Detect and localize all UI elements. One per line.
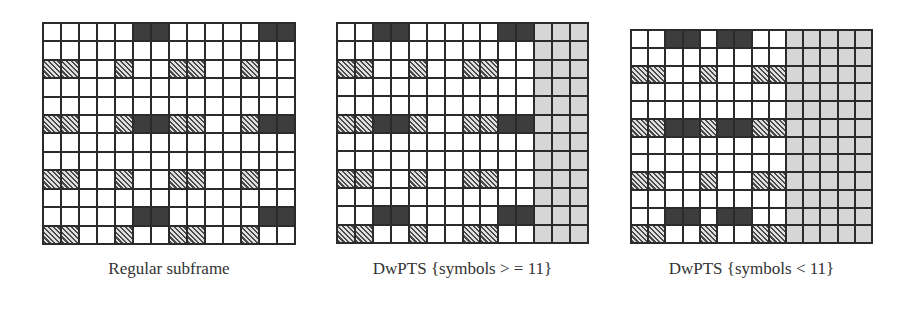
gray-cell [804, 49, 819, 65]
empty-cell [356, 152, 372, 168]
hatched-cell [481, 116, 497, 132]
gray-cell [553, 24, 569, 40]
empty-cell [666, 173, 681, 189]
empty-cell [338, 42, 354, 58]
hatched-cell [44, 171, 60, 187]
empty-cell [632, 191, 647, 207]
empty-cell [481, 189, 497, 205]
gray-cell [553, 97, 569, 113]
hatched-cell [116, 61, 132, 77]
empty-cell [356, 134, 372, 150]
dark-cell [666, 31, 681, 47]
empty-cell [666, 102, 681, 118]
empty-cell [499, 189, 515, 205]
empty-cell [80, 171, 96, 187]
gray-cell [787, 120, 802, 136]
gray-cell [856, 138, 871, 154]
empty-cell [374, 61, 390, 77]
empty-cell [170, 190, 186, 206]
empty-cell [44, 24, 60, 40]
hatched-cell [649, 120, 664, 136]
empty-cell [260, 42, 276, 58]
empty-cell [278, 61, 294, 77]
dark-cell [684, 209, 699, 225]
empty-cell [481, 97, 497, 113]
empty-cell [735, 49, 750, 65]
empty-cell [464, 134, 480, 150]
empty-cell [684, 155, 699, 171]
hatched-cell [116, 227, 132, 243]
hatched-cell [44, 116, 60, 132]
empty-cell [80, 208, 96, 224]
empty-cell [98, 79, 114, 95]
empty-cell [446, 97, 462, 113]
gray-cell [821, 102, 836, 118]
dark-cell [499, 24, 515, 40]
empty-cell [134, 134, 150, 150]
gray-cell [804, 84, 819, 100]
empty-cell [735, 191, 750, 207]
empty-cell [410, 134, 426, 150]
empty-cell [152, 227, 168, 243]
gray-cell [553, 134, 569, 150]
empty-cell [152, 79, 168, 95]
gray-cell [535, 134, 551, 150]
empty-cell [517, 226, 533, 242]
empty-cell [170, 24, 186, 40]
empty-cell [632, 31, 647, 47]
empty-cell [206, 171, 222, 187]
empty-cell [770, 155, 785, 171]
hatched-cell [116, 171, 132, 187]
dark-cell [260, 24, 276, 40]
empty-cell [446, 207, 462, 223]
empty-cell [134, 98, 150, 114]
empty-cell [224, 134, 240, 150]
empty-cell [62, 42, 78, 58]
gray-cell [804, 31, 819, 47]
hatched-cell [632, 173, 647, 189]
empty-cell [188, 98, 204, 114]
empty-cell [152, 134, 168, 150]
empty-cell [753, 84, 768, 100]
hatched-cell [338, 171, 354, 187]
empty-cell [356, 79, 372, 95]
empty-cell [206, 134, 222, 150]
empty-cell [374, 226, 390, 242]
gray-cell [821, 226, 836, 242]
empty-cell [44, 134, 60, 150]
empty-cell [701, 191, 716, 207]
empty-cell [428, 24, 444, 40]
empty-cell [206, 24, 222, 40]
empty-cell [98, 42, 114, 58]
empty-cell [428, 207, 444, 223]
empty-cell [374, 42, 390, 58]
empty-cell [356, 189, 372, 205]
empty-cell [80, 116, 96, 132]
gray-cell [856, 155, 871, 171]
empty-cell [649, 155, 664, 171]
empty-cell [684, 173, 699, 189]
caption-regular-subframe: Regular subframe [42, 259, 296, 279]
empty-cell [517, 152, 533, 168]
empty-cell [116, 153, 132, 169]
empty-cell [242, 79, 258, 95]
empty-cell [446, 134, 462, 150]
empty-cell [481, 79, 497, 95]
empty-cell [116, 98, 132, 114]
empty-cell [62, 79, 78, 95]
empty-cell [446, 171, 462, 187]
empty-cell [224, 171, 240, 187]
hatched-cell [116, 116, 132, 132]
gray-cell [571, 226, 587, 242]
hatched-cell [481, 171, 497, 187]
empty-cell [224, 227, 240, 243]
empty-cell [134, 190, 150, 206]
hatched-cell [649, 67, 664, 83]
empty-cell [278, 79, 294, 95]
gray-cell [535, 24, 551, 40]
gray-cell [804, 209, 819, 225]
dark-cell [735, 209, 750, 225]
empty-cell [98, 153, 114, 169]
empty-cell [224, 24, 240, 40]
empty-cell [649, 49, 664, 65]
